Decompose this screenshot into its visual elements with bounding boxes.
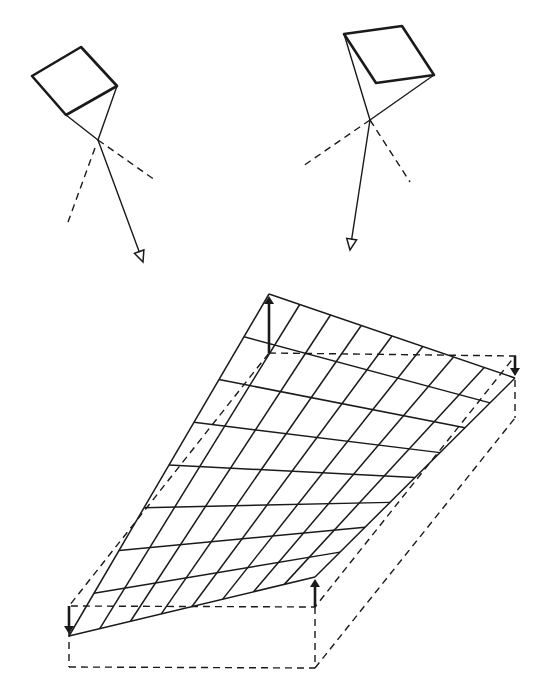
facet-support-line bbox=[344, 34, 370, 120]
reflected-ray bbox=[352, 120, 370, 239]
hollow-arrowhead-icon bbox=[347, 238, 357, 250]
normal-dashed-line bbox=[68, 148, 95, 222]
grid-line-u bbox=[269, 294, 515, 378]
facet-square bbox=[344, 26, 434, 83]
normal-dashed-line bbox=[370, 120, 410, 182]
facet-support-line bbox=[66, 115, 98, 140]
grid-line-u bbox=[144, 502, 390, 507]
warped-grid-surface bbox=[69, 294, 515, 636]
grid-line-u bbox=[94, 552, 340, 593]
box-edge bbox=[315, 418, 515, 668]
facet-square bbox=[32, 47, 117, 115]
right-facet-figure bbox=[303, 26, 434, 250]
box-edge bbox=[69, 667, 315, 668]
grid-line-u bbox=[244, 337, 490, 403]
diagram-canvas bbox=[0, 0, 556, 696]
normal-dashed-line bbox=[303, 120, 370, 166]
left-facet-figure bbox=[32, 47, 155, 262]
normal-dashed-line bbox=[98, 140, 155, 180]
grid-line-u bbox=[169, 465, 415, 478]
reflected-ray bbox=[98, 140, 139, 252]
grid-line-u bbox=[194, 422, 440, 452]
diagram-svg bbox=[0, 0, 556, 696]
